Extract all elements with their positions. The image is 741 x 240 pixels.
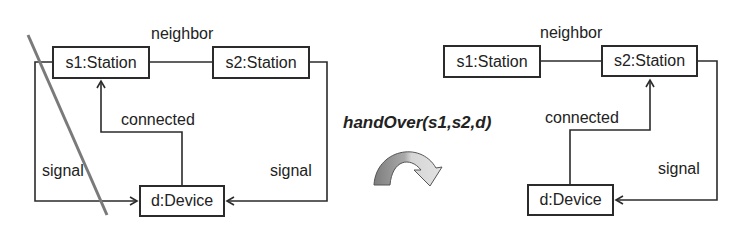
node-s1-station-after: s1:Station bbox=[443, 45, 541, 78]
signal-label-left-before: signal bbox=[42, 162, 84, 180]
connected-edge-before bbox=[101, 81, 182, 185]
signal-label-right-before: signal bbox=[270, 162, 312, 180]
transition-arrow-icon bbox=[374, 152, 442, 186]
node-s2-station-before: s2:Station bbox=[212, 46, 310, 79]
node-s2-station-after: s2:Station bbox=[601, 45, 698, 77]
signal-label-after: signal bbox=[658, 160, 700, 178]
connected-label-before: connected bbox=[121, 111, 195, 129]
operation-label: handOver(s1,s2,d) bbox=[343, 113, 491, 133]
neighbor-label-before: neighbor bbox=[151, 25, 213, 43]
node-device-before: d:Device bbox=[139, 185, 225, 217]
signal-edge-right-before bbox=[227, 62, 327, 201]
connected-edge-after bbox=[570, 80, 650, 184]
neighbor-label-after: neighbor bbox=[540, 24, 602, 42]
node-device-after: d:Device bbox=[527, 184, 614, 216]
connected-label-after: connected bbox=[545, 109, 619, 127]
node-s1-station-before: s1:Station bbox=[52, 46, 150, 79]
after-graph-edges bbox=[541, 61, 717, 200]
